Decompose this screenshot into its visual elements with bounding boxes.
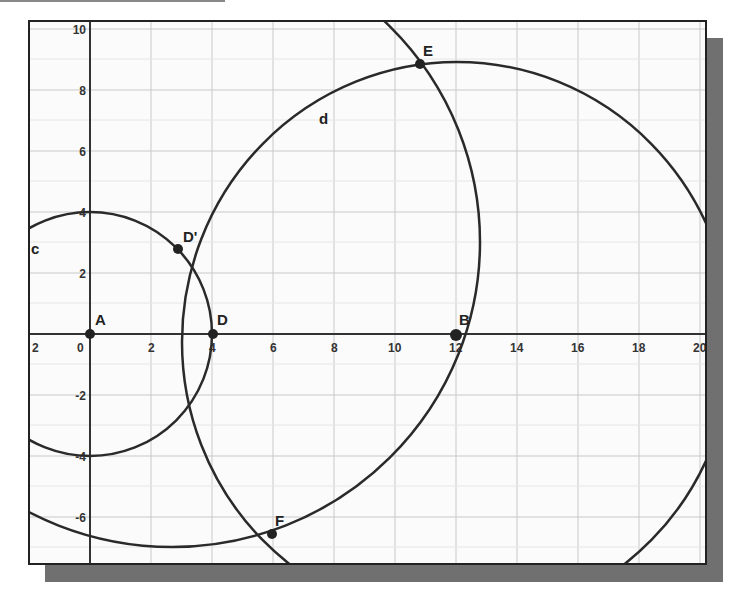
svg-text:10: 10 <box>388 341 402 355</box>
svg-text:10: 10 <box>73 23 87 37</box>
circle-through-e-f <box>30 22 480 547</box>
point-d[interactable] <box>208 329 218 339</box>
point-a[interactable] <box>85 329 95 339</box>
svg-text:18: 18 <box>632 341 646 355</box>
svg-text:16: 16 <box>571 341 585 355</box>
svg-text:-2: -2 <box>75 389 86 403</box>
svg-text:2: 2 <box>79 267 86 281</box>
label-a: A <box>95 311 106 328</box>
graph-canvas: 2 0 2 4 6 8 10 12 14 16 18 20 10 8 6 4 2… <box>30 22 707 565</box>
graph-frame: 2 0 2 4 6 8 10 12 14 16 18 20 10 8 6 4 2… <box>28 20 707 565</box>
label-e: E <box>423 42 433 59</box>
svg-text:0: 0 <box>77 341 84 355</box>
svg-text:14: 14 <box>510 341 524 355</box>
label-d: D <box>217 311 228 328</box>
svg-text:8: 8 <box>331 341 338 355</box>
point-b[interactable] <box>450 329 462 341</box>
label-d-curve: d <box>319 110 328 127</box>
svg-text:6: 6 <box>79 145 86 159</box>
svg-text:20: 20 <box>693 341 707 355</box>
label-f: F <box>275 512 284 529</box>
label-d-prime: D' <box>183 228 197 245</box>
point-d-prime[interactable] <box>173 244 183 254</box>
grid <box>30 22 707 565</box>
svg-text:6: 6 <box>270 341 277 355</box>
y-tick-labels: 10 8 6 4 2 -2 -4 -6 <box>73 23 87 525</box>
x-tick-labels: 2 0 2 4 6 8 10 12 14 16 18 20 <box>32 341 707 355</box>
point-f[interactable] <box>267 529 277 539</box>
label-c: c <box>31 240 39 257</box>
svg-text:2: 2 <box>32 341 39 355</box>
label-b: B <box>459 311 470 328</box>
top-rule <box>0 0 225 2</box>
svg-text:-6: -6 <box>75 511 86 525</box>
svg-text:2: 2 <box>148 341 155 355</box>
circle-d <box>182 62 707 565</box>
point-e[interactable] <box>415 59 425 69</box>
svg-text:8: 8 <box>79 84 86 98</box>
minor-grid <box>30 59 707 547</box>
